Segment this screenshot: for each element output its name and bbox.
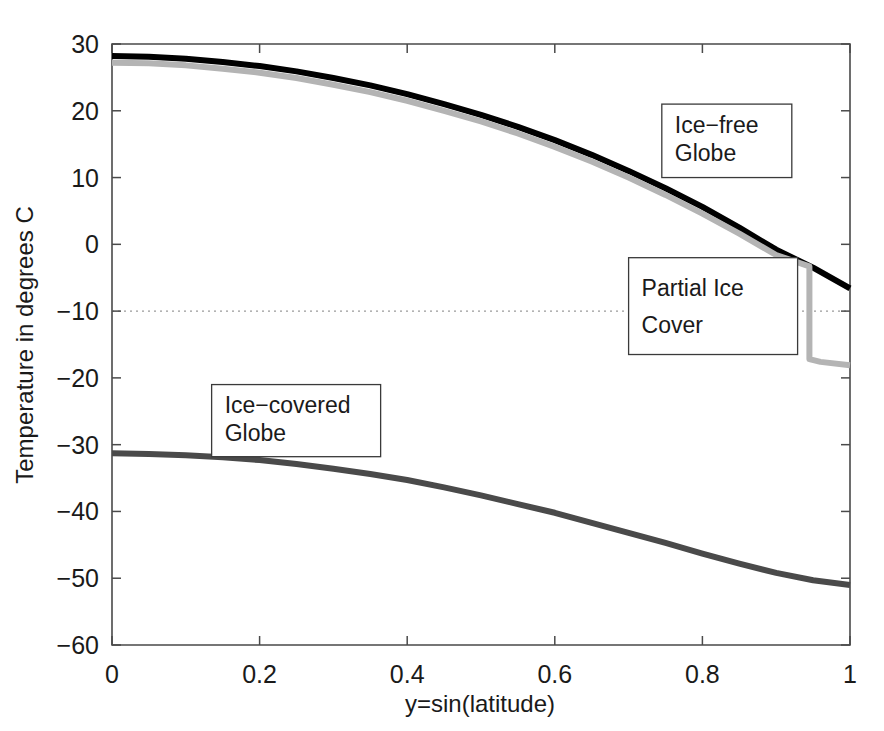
annotation-box (629, 258, 798, 355)
x-tick-label: 0.4 (390, 660, 425, 688)
annotation-line-1: Partial Ice (642, 275, 744, 301)
x-tick-label: 0.8 (685, 660, 720, 688)
y-axis-label: Temperature in degrees C (11, 206, 38, 483)
y-tick-label: −30 (57, 431, 99, 459)
y-tick-label: −60 (57, 631, 99, 659)
y-tick-label: 20 (71, 97, 99, 125)
annotation-line-2: Globe (675, 140, 736, 166)
annotation-partial-ice-cover: Partial IceCover (629, 258, 798, 355)
x-tick-label: 0.6 (537, 660, 572, 688)
x-axis-label: y=sin(latitude) (405, 690, 555, 717)
y-tick-label: 0 (85, 230, 99, 258)
annotation-line-1: Ice−free (675, 112, 759, 138)
x-tick-label: 0.2 (242, 660, 277, 688)
annotation-line-2: Globe (225, 420, 286, 446)
y-tick-label: −50 (57, 564, 99, 592)
annotation-line-2: Cover (642, 312, 704, 338)
temperature-vs-latitude-plot: 3020100−10−20−30−40−50−60 00.20.40.60.81… (0, 0, 884, 731)
annotation-line-1: Ice−covered (225, 392, 351, 418)
y-tick-label: 10 (71, 164, 99, 192)
x-tick-label: 0 (105, 660, 119, 688)
annotation-ice-covered-globe: Ice−coveredGlobe (212, 385, 381, 457)
y-tick-label: −10 (57, 297, 99, 325)
y-tick-label: 30 (71, 30, 99, 58)
annotation-ice-free-globe: Ice−freeGlobe (662, 104, 792, 177)
chart-figure: 3020100−10−20−30−40−50−60 00.20.40.60.81… (0, 0, 884, 731)
x-tick-label: 1 (843, 660, 857, 688)
y-tick-label: −40 (57, 497, 99, 525)
y-tick-label: −20 (57, 364, 99, 392)
